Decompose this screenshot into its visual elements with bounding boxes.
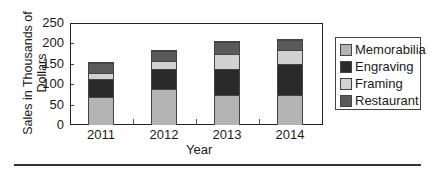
x-tick-label: 2014 xyxy=(270,127,310,142)
bar-2014 xyxy=(277,39,303,125)
y-tick-label: 100 xyxy=(34,77,64,90)
legend-item-restaurant: Restaurant xyxy=(340,92,416,109)
x-tick-label: 2011 xyxy=(81,127,121,142)
y-tick-label: 0 xyxy=(34,118,64,131)
y-axis-label-line1: Sales in Thousands of xyxy=(21,11,35,134)
legend-swatch-icon xyxy=(340,78,352,90)
y-tick-label: 200 xyxy=(34,36,64,49)
bar-2013 xyxy=(214,41,240,125)
x-tick-mark xyxy=(133,119,134,125)
legend: MemorabiliaEngravingFramingRestaurant xyxy=(335,37,421,110)
bar-segment-engraving xyxy=(278,64,302,94)
bar-segment-memorabilia xyxy=(278,95,302,125)
legend-item-framing: Framing xyxy=(340,75,416,92)
bar-2012 xyxy=(151,50,177,125)
y-tick-label: 150 xyxy=(34,57,64,70)
bar-segment-engraving xyxy=(89,79,113,97)
legend-label: Framing xyxy=(355,76,403,91)
horizontal-rule xyxy=(14,164,421,166)
bar-segment-memorabilia xyxy=(89,97,113,125)
legend-swatch-icon xyxy=(340,95,352,107)
bar-segment-framing xyxy=(152,61,176,69)
legend-swatch-icon xyxy=(340,61,352,73)
bar-segment-restaurant xyxy=(215,42,239,54)
bar-segment-restaurant xyxy=(278,40,302,50)
legend-label: Engraving xyxy=(355,59,414,74)
x-axis-label: Year xyxy=(186,142,212,157)
bar-segment-memorabilia xyxy=(215,95,239,125)
legend-item-memorabilia: Memorabilia xyxy=(340,41,416,58)
bar-2011 xyxy=(88,62,114,125)
legend-label: Memorabilia xyxy=(355,42,426,57)
x-tick-label: 2012 xyxy=(144,127,184,142)
legend-label: Restaurant xyxy=(355,93,419,108)
bar-segment-framing xyxy=(278,50,302,64)
legend-swatch-icon xyxy=(340,44,352,56)
x-tick-mark xyxy=(196,119,197,125)
bar-segment-memorabilia xyxy=(152,89,176,125)
bar-segment-framing xyxy=(215,54,239,68)
legend-item-engraving: Engraving xyxy=(340,58,416,75)
x-tick-mark xyxy=(259,119,260,125)
bar-segment-restaurant xyxy=(152,51,176,61)
bar-segment-restaurant xyxy=(89,63,113,73)
x-tick-label: 2013 xyxy=(207,127,247,142)
y-tick-label: 50 xyxy=(34,98,64,111)
bar-segment-engraving xyxy=(152,69,176,89)
bar-segment-engraving xyxy=(215,69,239,95)
y-tick-label: 250 xyxy=(34,16,64,29)
